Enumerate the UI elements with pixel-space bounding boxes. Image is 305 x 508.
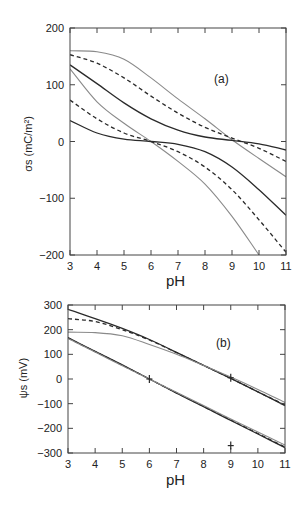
y-axis-title-a: σs (mC/m²) (22, 94, 34, 194)
x-tick-label: 8 (201, 458, 207, 470)
y-axis-title-b: ψs (mV) (17, 343, 29, 413)
panel-b: 34567891011−300−200−1000100200300 (37, 299, 290, 470)
y-tick-label: 100 (46, 79, 64, 91)
x-tick-label: 10 (253, 260, 265, 272)
x-tick-label: 6 (148, 260, 154, 272)
series-line (70, 100, 286, 252)
x-tick-label: 3 (67, 260, 73, 272)
x-tick-label: 9 (228, 458, 234, 470)
series-group (70, 51, 286, 255)
x-tick-label: 10 (252, 458, 264, 470)
x-tick-label: 5 (119, 458, 125, 470)
y-tick-label: 100 (44, 348, 62, 360)
x-tick-label: 7 (173, 458, 179, 470)
y-tick-label: −200 (37, 422, 62, 434)
x-axis-title-a: pH (166, 272, 185, 289)
y-axis-title-b-text: ψs (mV) (17, 358, 29, 398)
series-group (68, 309, 285, 447)
y-tick-label: −300 (37, 447, 62, 459)
plot-frame (70, 28, 286, 255)
series-line (68, 309, 285, 405)
y-tick-label: 0 (58, 136, 64, 148)
y-axis-title-a-text: σs (mC/m²) (22, 116, 34, 172)
y-tick-label: −100 (37, 398, 62, 410)
y-tick-label: 300 (44, 299, 62, 311)
panel-a: 34567891011−200−1000100200 (39, 22, 291, 272)
y-tick-label: −200 (39, 249, 64, 261)
panel-a-label: (a) (214, 72, 229, 86)
x-tick-label: 6 (146, 458, 152, 470)
x-axis-title-b: pH (166, 471, 185, 488)
x-tick-label: 8 (202, 260, 208, 272)
y-tick-label: 200 (46, 22, 64, 34)
x-tick-label: 3 (65, 458, 71, 470)
x-tick-label: 11 (280, 260, 291, 272)
series-line (70, 51, 286, 177)
x-tick-label: 4 (94, 260, 100, 272)
series-line (70, 69, 259, 255)
series-line (70, 55, 286, 162)
y-tick-label: 0 (56, 373, 62, 385)
y-tick-label: 200 (44, 324, 62, 336)
x-tick-label: 7 (175, 260, 181, 272)
x-tick-label: 11 (279, 458, 290, 470)
x-tick-label: 9 (229, 260, 235, 272)
x-tick-label: 4 (92, 458, 98, 470)
x-tick-label: 5 (121, 260, 127, 272)
panel-b-label: (b) (216, 336, 231, 350)
y-tick-label: −100 (39, 192, 64, 204)
series-line (70, 121, 286, 216)
figure: 34567891011−200−100010020034567891011−30… (0, 0, 305, 508)
